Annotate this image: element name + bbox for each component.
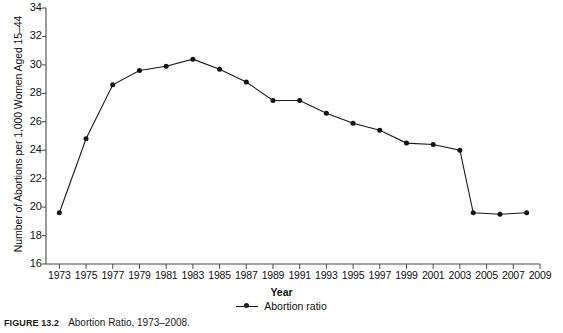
data-point <box>137 68 142 73</box>
data-point <box>84 136 89 141</box>
legend-marker-icon <box>236 302 258 311</box>
axis-ticks <box>42 8 540 269</box>
data-point <box>457 148 462 153</box>
data-point <box>270 98 275 103</box>
axes <box>46 8 540 264</box>
data-point <box>471 210 476 215</box>
data-point <box>404 141 409 146</box>
data-point <box>110 82 115 87</box>
x-axis-tick-labels: 1973197519771979198119831985198719891991… <box>0 269 563 285</box>
data-point <box>217 67 222 72</box>
data-point <box>431 142 436 147</box>
series-abortion-ratio <box>57 57 529 217</box>
data-point <box>497 212 502 217</box>
data-point <box>57 210 62 215</box>
data-point <box>524 210 529 215</box>
figure-caption: FIGURE 13.2Abortion Ratio, 1973–2008. <box>4 317 559 328</box>
x-tick-label: 2009 <box>523 269 557 281</box>
data-point <box>324 111 329 116</box>
data-point <box>297 98 302 103</box>
chart-plot <box>0 0 563 300</box>
data-point <box>351 121 356 126</box>
data-point <box>377 128 382 133</box>
data-point <box>190 57 195 62</box>
data-point <box>244 79 249 84</box>
data-point <box>164 64 169 69</box>
chart-legend: Abortion ratio <box>0 300 563 312</box>
x-axis-title: Year <box>0 286 563 298</box>
figure-caption-label: FIGURE 13.2 <box>4 318 59 328</box>
legend-label-abortion-ratio: Abortion ratio <box>264 300 326 312</box>
figure-container: Number of Abortions per 1,000 Women Aged… <box>0 0 563 333</box>
figure-caption-text: Abortion Ratio, 1973–2008. <box>68 317 190 328</box>
